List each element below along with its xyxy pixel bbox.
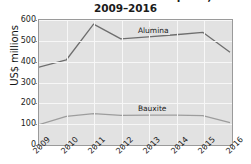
gridline-horizontal xyxy=(39,62,232,63)
y-tick-label: 300 xyxy=(2,79,36,87)
series-label-alumina: Alumina xyxy=(137,27,170,35)
chart-title: Bauxite and alumina exports, 2009–2016 xyxy=(0,0,251,14)
gridline-horizontal xyxy=(39,103,232,104)
y-tick-label: 400 xyxy=(2,58,36,66)
y-tick-label: 100 xyxy=(2,120,36,128)
series-label-bauxite: Bauxite xyxy=(137,105,168,113)
gridline-horizontal xyxy=(39,20,232,21)
y-tick-mark xyxy=(34,124,37,125)
gridline-vertical xyxy=(149,20,150,145)
gridline-horizontal xyxy=(39,124,232,125)
gridline-vertical xyxy=(67,20,68,145)
gridline-vertical xyxy=(204,20,205,145)
y-tick-label: 200 xyxy=(2,99,36,107)
gridline-horizontal xyxy=(39,41,232,42)
series-line-bauxite xyxy=(39,114,230,125)
chart-title-line-2: 2009–2016 xyxy=(0,3,251,15)
y-tick-mark xyxy=(34,103,37,104)
y-tick-mark xyxy=(34,62,37,63)
plot-area xyxy=(38,19,233,146)
gridline-vertical xyxy=(177,20,178,145)
gridline-horizontal xyxy=(39,83,232,84)
gridline-vertical xyxy=(122,20,123,145)
gridline-vertical xyxy=(94,20,95,145)
y-tick-mark xyxy=(34,20,37,21)
chart-root: Bauxite and alumina exports, 2009–2016 U… xyxy=(0,0,251,164)
y-tick-mark xyxy=(34,83,37,84)
y-tick-mark xyxy=(34,41,37,42)
y-axis-ticks: 0100200300400500600 xyxy=(0,0,36,164)
y-tick-label: 500 xyxy=(2,37,36,45)
y-tick-label: 600 xyxy=(2,16,36,24)
